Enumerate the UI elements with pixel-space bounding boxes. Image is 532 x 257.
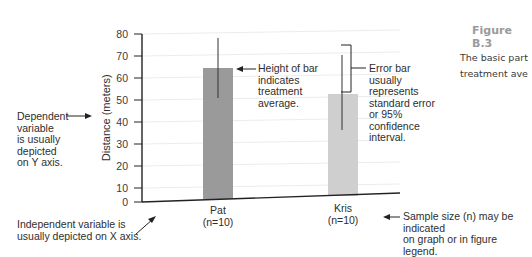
- bar-kris: [328, 94, 358, 196]
- figure-caption: Figure B.3 The basic part treatment ave: [472, 24, 532, 82]
- annotation-independent-variable: Independent variable is usually depicted…: [17, 219, 141, 242]
- y-tick-label: 0: [106, 196, 128, 208]
- annotation-error-bar: Error bar usually represents standard er…: [369, 63, 435, 144]
- figure-caption-title: Figure B.3: [472, 24, 532, 50]
- y-axis-title: Distance (meters): [101, 63, 113, 173]
- y-tick-label: 10: [106, 182, 128, 194]
- x-axis: [142, 193, 400, 202]
- annotation-sample-size: Sample size (n) may be indicated on grap…: [403, 211, 532, 257]
- annotation-bar-height: Height of bar indicates treatment averag…: [258, 63, 318, 109]
- figure-caption-text: The basic part treatment ave: [460, 50, 532, 82]
- arrow-right-icon: [66, 113, 92, 119]
- error-bracket: [341, 45, 366, 92]
- arrow-left-icon: [236, 66, 256, 72]
- x-category-label: Pat (n=10): [193, 205, 243, 228]
- gridlines: [142, 30, 400, 188]
- y-tick-label: 70: [106, 50, 128, 62]
- y-tick-label: 80: [106, 28, 128, 40]
- annotation-dependent-variable: Dependent variable is usually depicted o…: [17, 111, 68, 169]
- x-category-label: Kris (n=10): [318, 203, 368, 226]
- arrow-left-icon: [383, 214, 400, 220]
